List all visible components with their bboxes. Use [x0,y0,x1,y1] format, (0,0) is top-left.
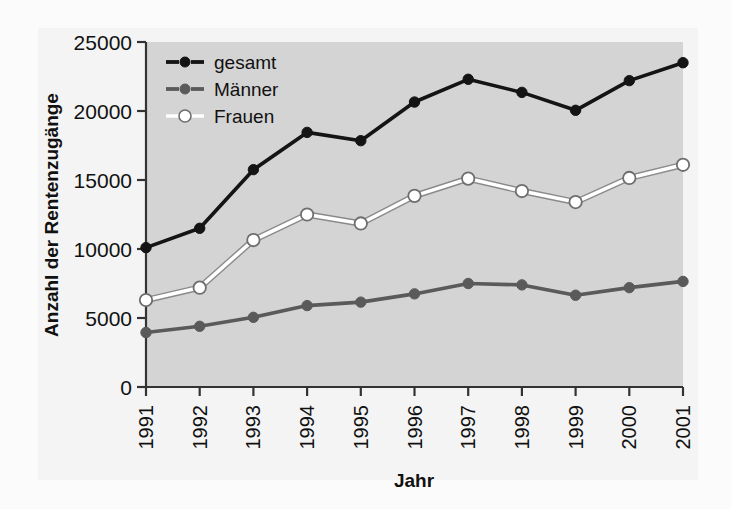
x-tick-label: 1994 [296,405,318,450]
x-axis-ticks: 1991199219931994199519961997199819992000… [135,387,694,450]
y-axis-title: Anzahl der Rentenzugänge [41,93,62,337]
data-point [677,159,689,171]
y-tick-label: 15000 [74,169,132,192]
y-tick-label: 5000 [85,307,132,330]
data-point [678,58,688,68]
legend-label: Frauen [214,106,274,127]
x-tick-label: 1996 [404,405,426,450]
legend-label: Männer [214,79,279,100]
legend-marker [179,110,191,122]
x-tick-label: 1991 [135,405,157,450]
data-point [569,196,581,208]
data-point [678,276,688,286]
legend-marker [180,57,190,67]
data-point [141,242,151,252]
y-axis-ticks: 0500010000150002000025000 [74,31,146,399]
x-tick-label: 1995 [350,405,372,450]
data-point [570,105,580,115]
data-point [623,172,635,184]
chart-page: 0500010000150002000025000 19911992199319… [0,0,731,509]
chart-svg: 0500010000150002000025000 19911992199319… [0,0,731,509]
data-point [302,127,312,137]
data-point [570,290,580,300]
data-point [408,190,420,202]
data-point [356,297,366,307]
data-point [195,321,205,331]
x-tick-label: 1999 [565,405,587,450]
data-point [248,312,258,322]
x-tick-label: 1992 [189,405,211,450]
data-point [624,75,634,85]
y-tick-label: 0 [120,376,132,399]
x-axis-title: Jahr [394,470,435,491]
x-tick-label: 2000 [618,405,640,450]
data-point [517,280,527,290]
x-tick-label: 2001 [672,405,694,450]
data-point [624,282,634,292]
data-point [409,289,419,299]
data-point [516,185,528,197]
y-tick-label: 10000 [74,238,132,261]
legend-marker [180,84,190,94]
data-point [356,135,366,145]
data-point [301,208,313,220]
data-point [463,74,473,84]
data-point [463,278,473,288]
y-tick-label: 25000 [74,31,132,54]
x-tick-label: 1997 [457,405,479,450]
line-chart: 0500010000150002000025000 19911992199319… [0,0,731,509]
data-point [140,294,152,306]
chart-legend: gesamtMännerFrauen [166,52,279,127]
data-point [247,234,259,246]
x-tick-label: 1998 [511,405,533,450]
data-point [302,300,312,310]
data-point [462,172,474,184]
data-point [194,281,206,293]
data-point [409,97,419,107]
data-point [248,164,258,174]
y-tick-label: 20000 [74,100,132,123]
data-point [355,217,367,229]
legend-label: gesamt [214,52,277,73]
data-point [141,327,151,337]
data-point [195,223,205,233]
x-tick-label: 1993 [242,405,264,450]
data-point [517,87,527,97]
